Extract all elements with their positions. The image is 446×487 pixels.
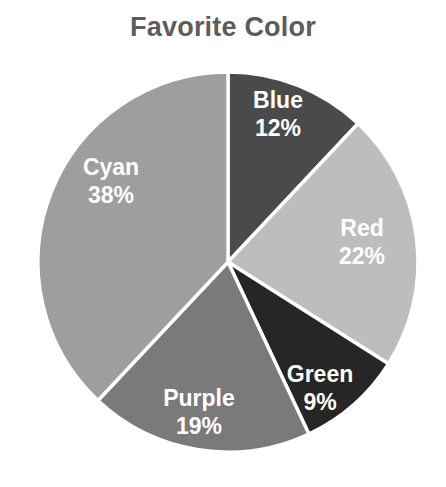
pie-slice-label-name-cyan: Cyan [83,154,139,180]
pie-slice-label-name-green: Green [287,361,353,387]
pie-slice-label-value-blue: 12% [255,115,301,141]
pie-slice-label-value-purple: 19% [176,413,222,439]
pie-slice-label-name-blue: Blue [253,87,303,113]
pie-chart-canvas: Blue12%Red22%Green9%Purple19%Cyan38% [0,0,446,487]
pie-slice-label-name-red: Red [340,215,383,241]
pie-chart-figure: Favorite Color Blue12%Red22%Green9%Purpl… [0,0,446,487]
pie-slice-label-value-cyan: 38% [88,182,134,208]
pie-slice-label-value-green: 9% [303,389,336,415]
pie-slice-label-name-purple: Purple [163,385,235,411]
pie-slice-label-value-red: 22% [339,243,385,269]
